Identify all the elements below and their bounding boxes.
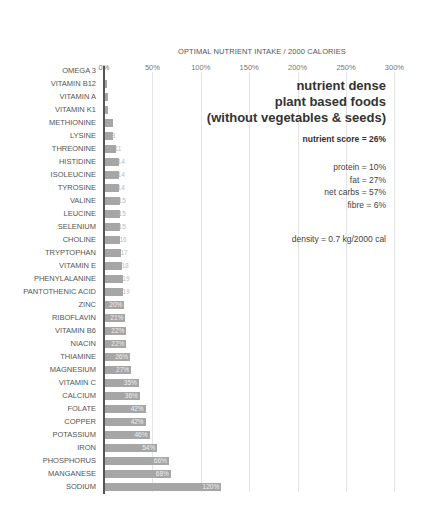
- category-label: ZINC: [79, 299, 97, 311]
- bar: [105, 80, 107, 88]
- bar-value-label: 42%: [131, 418, 144, 426]
- bar-value-label: 66%: [154, 457, 167, 465]
- bar: 11: [105, 145, 116, 153]
- category-label: THIAMINE: [60, 351, 96, 363]
- heading-line-1: nutrient dense: [207, 78, 386, 94]
- category-label: NIACIN: [71, 338, 96, 350]
- fibre-text: fibre = 6%: [324, 199, 386, 212]
- bar-row: NIACIN22%: [0, 338, 423, 350]
- bar-row: MANGANESE68%: [0, 468, 423, 480]
- bar-row: FOLATE42%: [0, 403, 423, 415]
- bar-row: MAGNESIUM27%: [0, 364, 423, 376]
- bar-value-label: 22%: [111, 327, 124, 335]
- bar-row: PHENYLALANINE19: [0, 273, 423, 285]
- fat-text: fat = 27%: [324, 174, 386, 187]
- bar: 42%: [105, 418, 146, 426]
- category-label: PHOSPHORUS: [43, 455, 96, 467]
- bar-value-label: 22%: [111, 340, 124, 348]
- bar: 19: [105, 288, 123, 296]
- category-label: IRON: [77, 442, 96, 454]
- bar-row: IRON54%: [0, 442, 423, 454]
- bar-value-label: 20%: [109, 301, 122, 309]
- category-label: VITAMIN B6: [55, 325, 96, 337]
- bar-row: VITAMIN B622%: [0, 325, 423, 337]
- bar-row: THIAMINE26%: [0, 351, 423, 363]
- bar-value-label: 18: [121, 262, 128, 270]
- category-label: VALINE: [70, 195, 96, 207]
- category-label: LEUCINE: [63, 208, 96, 220]
- bar: 54%: [105, 444, 157, 452]
- category-label: POTASSIUM: [52, 429, 96, 441]
- bar-row: ZINC20%: [0, 299, 423, 311]
- bar-value-label: 36%: [125, 392, 138, 400]
- nutrient-score: nutrient score = 26%: [303, 134, 386, 144]
- bar: 19: [105, 275, 123, 283]
- bar: 16: [105, 236, 120, 244]
- bar: 22%: [105, 327, 126, 335]
- bar-row: TRYPTOPHAN17: [0, 247, 423, 259]
- category-label: CALCIUM: [62, 390, 96, 402]
- bar-value-label: 54%: [142, 444, 155, 452]
- bar-value-label: 14: [118, 171, 125, 179]
- bar-row: OMEGA 3: [0, 65, 423, 77]
- bar-row: VITAMIN E18: [0, 260, 423, 272]
- bar-value-label: 8: [112, 132, 116, 140]
- bar: 20%: [105, 301, 124, 309]
- chart-title: OPTIMAL NUTRIENT INTAKE / 2000 CALORIES: [112, 47, 412, 56]
- bar-row: SODIUM120%: [0, 481, 423, 493]
- bar-row: SELENIUM15: [0, 221, 423, 233]
- bar: 21%: [105, 314, 125, 322]
- bar-row: POTASSIUM46%: [0, 429, 423, 441]
- category-label: RIBOFLAVIN: [52, 312, 96, 324]
- bar: 14: [105, 184, 119, 192]
- bar-value-label: 120%: [203, 483, 220, 491]
- category-label: SELENIUM: [58, 221, 96, 233]
- bar: 15: [105, 223, 120, 231]
- category-label: PANTOTHENIC ACID: [23, 286, 96, 298]
- category-label: VITAMIN C: [59, 377, 96, 389]
- category-label: MANGANESE: [48, 468, 96, 480]
- bar: 66%: [105, 457, 169, 465]
- bar-value-label: 16: [119, 236, 126, 244]
- macros: protein = 10% fat = 27% net carbs = 57% …: [324, 161, 386, 211]
- bar: 46%: [105, 431, 150, 439]
- bar-value-label: 15: [119, 197, 126, 205]
- category-label: VITAMIN A: [59, 91, 96, 103]
- bar: 14: [105, 158, 119, 166]
- bar-value-label: 14: [118, 158, 125, 166]
- bar: 26%: [105, 353, 130, 361]
- bar: 120%: [105, 483, 221, 491]
- bar: 8: [105, 132, 113, 140]
- bar: 15: [105, 210, 120, 218]
- bar: 35%: [105, 379, 139, 387]
- bar: 15: [105, 197, 120, 205]
- bar: 42%: [105, 405, 146, 413]
- bar-row: RIBOFLAVIN21%: [0, 312, 423, 324]
- bar: [105, 119, 113, 127]
- bar: 68%: [105, 470, 171, 478]
- category-label: COPPER: [64, 416, 96, 428]
- heading-line-2: plant based foods: [207, 94, 386, 110]
- bar-value-label: 27%: [116, 366, 129, 374]
- bar-value-label: 15: [119, 223, 126, 231]
- category-label: HISTIDINE: [59, 156, 96, 168]
- bar: 18: [105, 262, 122, 270]
- category-label: PHENYLALANINE: [34, 273, 96, 285]
- bar-row: PHOSPHORUS66%: [0, 455, 423, 467]
- category-label: OMEGA 3: [62, 65, 96, 77]
- bar-value-label: 35%: [124, 379, 137, 387]
- protein-text: protein = 10%: [324, 161, 386, 174]
- net-carbs-text: net carbs = 57%: [324, 186, 386, 199]
- chart-heading: nutrient dense plant based foods (withou…: [207, 78, 386, 126]
- bar-row: PANTOTHENIC ACID19: [0, 286, 423, 298]
- bar-value-label: 46%: [135, 431, 148, 439]
- category-label: CHOLINE: [63, 234, 96, 246]
- bar-row: THREONINE11: [0, 143, 423, 155]
- bar-value-label: 26%: [115, 353, 128, 361]
- bar-value-label: 19: [122, 275, 129, 283]
- category-label: TRYPTOPHAN: [45, 247, 96, 259]
- bar-value-label: 17: [120, 249, 127, 257]
- bar-value-label: 19: [122, 288, 129, 296]
- bar-value-label: 21%: [110, 314, 123, 322]
- category-label: FOLATE: [67, 403, 96, 415]
